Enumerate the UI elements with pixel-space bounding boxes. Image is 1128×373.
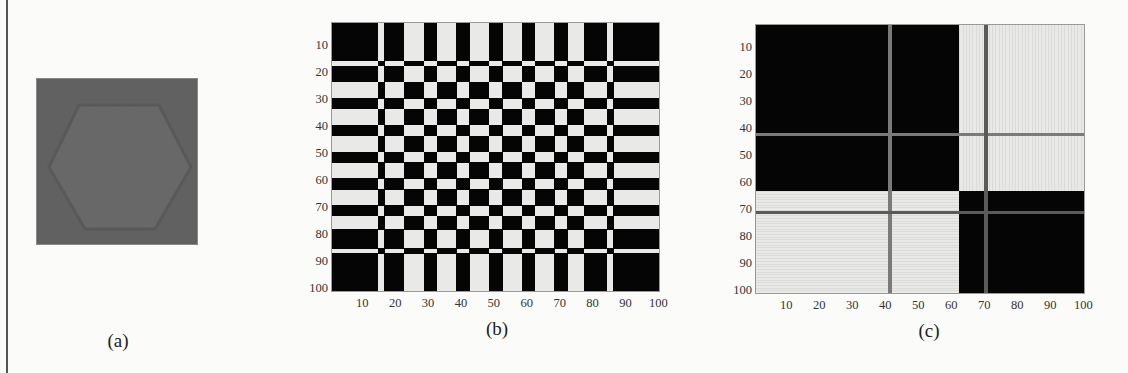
texture-line xyxy=(756,205,959,206)
texture-line xyxy=(756,226,959,227)
texture-line xyxy=(959,25,960,191)
texture-line xyxy=(1077,25,1078,191)
texture-line xyxy=(1002,25,1003,191)
texture-line xyxy=(756,215,959,216)
texture-line xyxy=(756,197,959,198)
y-tick-label: 60 xyxy=(740,175,753,189)
texture-line xyxy=(1035,25,1036,191)
texture-line xyxy=(1028,25,1029,191)
texture-line xyxy=(756,272,959,273)
texture-line xyxy=(756,218,959,219)
outlier-line-vertical xyxy=(888,25,892,293)
texture-line xyxy=(1045,25,1046,191)
y-tick-label: 40 xyxy=(740,121,753,135)
texture-line xyxy=(1009,25,1010,191)
texture-line xyxy=(756,261,959,262)
texture-line xyxy=(1054,25,1055,191)
x-tick-label: 40 xyxy=(879,298,892,312)
x-tick-label: 70 xyxy=(978,298,991,312)
texture-line xyxy=(756,242,959,243)
texture-line xyxy=(756,277,959,278)
texture-line xyxy=(756,223,959,224)
texture-line xyxy=(979,25,980,191)
texture-line xyxy=(1074,25,1075,191)
y-tick-label: 100 xyxy=(733,283,752,297)
y-tick-label: 90 xyxy=(740,256,753,270)
texture-line xyxy=(756,229,959,230)
block-matrix-c xyxy=(755,24,1085,294)
texture-line xyxy=(756,234,959,235)
texture-line xyxy=(1038,25,1039,191)
outlier-line-horizontal xyxy=(756,211,1084,214)
texture-line xyxy=(1064,25,1065,191)
texture-line xyxy=(1081,25,1082,191)
outlier-line-horizontal xyxy=(756,133,1084,136)
texture-line xyxy=(756,245,959,246)
texture-line xyxy=(756,253,959,254)
texture-line xyxy=(1025,25,1026,191)
texture-line xyxy=(1022,25,1023,191)
texture-line xyxy=(756,207,959,208)
x-tick-label: 50 xyxy=(912,298,925,312)
texture-line xyxy=(992,25,993,191)
outlier-line-vertical xyxy=(984,25,988,293)
x-tick-label: 10 xyxy=(780,298,793,312)
x-tick-label: 90 xyxy=(1044,298,1057,312)
texture-line xyxy=(756,191,959,192)
texture-line xyxy=(999,25,1000,191)
texture-line xyxy=(966,25,967,191)
texture-line xyxy=(1058,25,1059,191)
y-tick-label: 80 xyxy=(740,229,753,243)
y-tick-label: 50 xyxy=(740,148,753,162)
texture-line xyxy=(756,194,959,195)
texture-line xyxy=(1012,25,1013,191)
texture-line xyxy=(756,221,959,222)
texture-line xyxy=(1051,25,1052,191)
texture-line xyxy=(756,239,959,240)
texture-line xyxy=(756,258,959,259)
texture-line xyxy=(1018,25,1019,191)
texture-line xyxy=(1071,25,1072,191)
x-tick-label: 100 xyxy=(1074,298,1093,312)
texture-line xyxy=(756,264,959,265)
texture-line xyxy=(756,285,959,286)
texture-line xyxy=(1068,25,1069,191)
texture-line xyxy=(756,282,959,283)
texture-line xyxy=(756,255,959,256)
texture-line xyxy=(1061,25,1062,191)
texture-line xyxy=(976,25,977,191)
texture-line xyxy=(1041,25,1042,191)
x-tick-label: 60 xyxy=(945,298,958,312)
y-tick-label: 70 xyxy=(740,202,753,216)
texture-line xyxy=(969,25,970,191)
texture-line xyxy=(756,202,959,203)
caption-c: (c) xyxy=(918,320,939,342)
texture-line xyxy=(756,274,959,275)
texture-line xyxy=(756,250,959,251)
texture-line xyxy=(756,266,959,267)
y-tick-label: 30 xyxy=(740,94,753,108)
texture-line xyxy=(756,269,959,270)
texture-line xyxy=(1032,25,1033,191)
texture-line xyxy=(756,290,959,291)
texture-line xyxy=(756,288,959,289)
texture-line xyxy=(756,199,959,200)
texture-line xyxy=(756,247,959,248)
dark-block xyxy=(959,191,1084,293)
y-tick-label: 20 xyxy=(740,67,753,81)
x-tick-label: 30 xyxy=(846,298,859,312)
y-tick-label: 10 xyxy=(740,40,753,54)
texture-line xyxy=(995,25,996,191)
texture-line xyxy=(1048,25,1049,191)
texture-line xyxy=(1005,25,1006,191)
texture-line xyxy=(963,25,964,191)
texture-line xyxy=(756,231,959,232)
x-tick-label: 20 xyxy=(813,298,826,312)
texture-line xyxy=(756,237,959,238)
dark-block xyxy=(756,25,959,191)
panel-c: 102030405060708090100 102030405060708090… xyxy=(0,0,1128,373)
texture-line xyxy=(756,280,959,281)
texture-line xyxy=(989,25,990,191)
texture-line xyxy=(1015,25,1016,191)
texture-line xyxy=(972,25,973,191)
